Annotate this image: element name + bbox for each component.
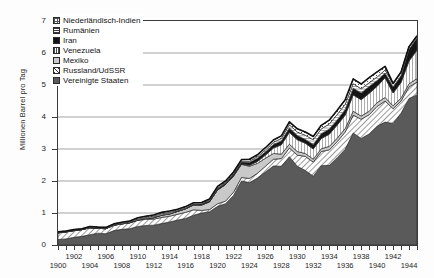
x-axis-tick <box>106 246 107 250</box>
x-axis-tick <box>98 246 99 250</box>
x-axis-tick <box>337 246 338 250</box>
x-axis-tick <box>369 246 370 250</box>
legend-item: Iran <box>53 35 140 45</box>
y-axis-tick <box>52 181 57 182</box>
x-axis-tick-label: 1904 <box>72 261 108 270</box>
y-axis-tick-label: 2 <box>20 176 46 185</box>
legend-label: Mexiko <box>63 56 88 65</box>
legend-label: Niederländisch-Indien <box>63 16 140 25</box>
x-axis-tick <box>194 246 195 250</box>
y-axis-title: Millionen Barrel pro Tag <box>18 35 27 185</box>
legend: Niederländisch-IndienRumänienIranVenezue… <box>52 14 143 86</box>
x-axis-tick <box>241 246 242 250</box>
legend-item: Russland/UdSSR <box>53 65 140 75</box>
x-axis-tick <box>345 246 346 250</box>
legend-swatch-icon <box>53 47 60 54</box>
y-axis-tick <box>52 213 57 214</box>
x-axis-tick-label: 1924 <box>231 261 267 270</box>
x-axis-tick <box>281 246 282 250</box>
x-axis-tick <box>66 246 67 250</box>
legend-label: Venezuela <box>63 46 100 55</box>
x-axis-tick <box>58 246 59 250</box>
x-axis-tick <box>114 246 115 250</box>
x-axis-tick <box>249 246 250 250</box>
x-axis-tick <box>289 246 290 250</box>
x-axis-tick-label: 1930 <box>279 252 315 261</box>
legend-item: Vereinigte Staaten <box>53 75 140 85</box>
x-axis-tick <box>265 246 266 250</box>
x-axis-tick <box>313 246 314 250</box>
legend-item: Rumänien <box>53 25 140 35</box>
x-axis-tick <box>385 246 386 250</box>
x-axis-tick <box>401 246 402 250</box>
x-axis-tick <box>257 246 258 250</box>
legend-swatch-icon <box>53 57 60 64</box>
x-axis-tick-label: 1918 <box>184 252 220 261</box>
x-axis-tick-label: 1940 <box>359 261 395 270</box>
x-axis-tick <box>154 246 155 250</box>
x-axis-tick-label: 1922 <box>216 252 252 261</box>
x-axis-tick <box>122 246 123 250</box>
x-axis-tick <box>178 246 179 250</box>
legend-item: Niederländisch-Indien <box>53 15 140 25</box>
legend-label: Rumänien <box>63 26 99 35</box>
legend-item: Venezuela <box>53 45 140 55</box>
x-axis-tick <box>162 246 163 250</box>
x-axis-tick <box>186 246 187 250</box>
x-axis-tick-label: 1938 <box>343 252 379 261</box>
x-axis-tick-label: 1910 <box>120 252 156 261</box>
x-axis-tick <box>393 246 394 250</box>
legend-swatch-icon <box>53 77 60 84</box>
y-axis-tick-label: 7 <box>20 16 46 25</box>
y-axis-tick <box>52 117 57 118</box>
y-axis-tick-label: 0 <box>20 240 46 249</box>
y-axis-tick-label: 1 <box>20 208 46 217</box>
y-axis-tick <box>52 245 57 246</box>
x-axis-tick-label: 1912 <box>136 261 172 270</box>
x-axis-tick-label: 1932 <box>295 261 331 270</box>
oil-production-area-chart: Millionen Barrel pro Tag <box>0 0 434 278</box>
x-axis-tick <box>138 246 139 250</box>
x-axis-tick <box>409 246 410 250</box>
x-axis-tick <box>273 246 274 250</box>
x-axis-tick <box>321 246 322 250</box>
x-axis-tick-label: 1926 <box>247 252 283 261</box>
y-axis-tick-label: 6 <box>20 48 46 57</box>
x-axis-tick <box>218 246 219 250</box>
x-axis-tick <box>90 246 91 250</box>
x-axis-tick-label: 1902 <box>56 252 92 261</box>
legend-swatch-icon <box>53 17 60 24</box>
x-axis-tick <box>202 246 203 250</box>
y-axis-tick-label: 3 <box>20 144 46 153</box>
x-axis-tick <box>305 246 306 250</box>
x-axis-tick-label: 1916 <box>168 261 204 270</box>
x-axis-tick <box>361 246 362 250</box>
legend-label: Russland/UdSSR <box>63 66 125 75</box>
x-axis-tick-label: 1914 <box>152 252 188 261</box>
x-axis-tick <box>353 246 354 250</box>
x-axis-tick <box>377 246 378 250</box>
x-axis-tick-label: 1944 <box>391 261 427 270</box>
y-axis-tick-label: 5 <box>20 80 46 89</box>
legend-label: Iran <box>63 36 77 45</box>
x-axis-tick-label: 1936 <box>327 261 363 270</box>
x-axis-tick <box>74 246 75 250</box>
x-axis-tick <box>82 246 83 250</box>
y-axis-tick-label: 4 <box>20 112 46 121</box>
x-axis-tick <box>170 246 171 250</box>
x-axis-tick-label: 1934 <box>311 252 347 261</box>
legend-label: Vereinigte Staaten <box>63 76 128 85</box>
x-axis-tick-label: 1900 <box>40 261 76 270</box>
x-axis-tick <box>329 246 330 250</box>
x-axis-tick <box>210 246 211 250</box>
x-axis-tick-label: 1906 <box>88 252 124 261</box>
legend-swatch-icon <box>53 27 60 34</box>
legend-swatch-icon <box>53 67 60 74</box>
x-axis-tick-label: 1928 <box>263 261 299 270</box>
x-axis-tick <box>234 246 235 250</box>
x-axis-tick <box>226 246 227 250</box>
x-axis-tick-label: 1908 <box>104 261 140 270</box>
x-axis-tick-label: 1942 <box>375 252 411 261</box>
legend-item: Mexiko <box>53 55 140 65</box>
x-axis-tick <box>130 246 131 250</box>
